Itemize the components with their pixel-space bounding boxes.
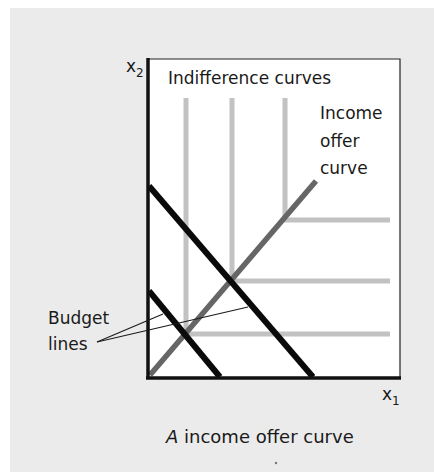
print-dot xyxy=(275,462,277,464)
figure-caption: A income offer curve xyxy=(165,426,354,447)
income-offer-curve-label-line1: Income xyxy=(320,103,383,123)
income-offer-curve-diagram: x2 x1 Indifference curves Income offer c… xyxy=(0,0,434,472)
budget-lines-label-line1: Budget xyxy=(48,308,109,328)
budget-lines-label-line2: lines xyxy=(48,334,88,354)
x-axis-label: x1 xyxy=(382,384,400,408)
income-offer-curve-label-line3: curve xyxy=(320,158,368,178)
indifference-curves-label: Indifference curves xyxy=(168,68,331,88)
y-axis-label: x2 xyxy=(126,56,144,80)
income-offer-curve-label-line2: offer xyxy=(320,131,360,151)
